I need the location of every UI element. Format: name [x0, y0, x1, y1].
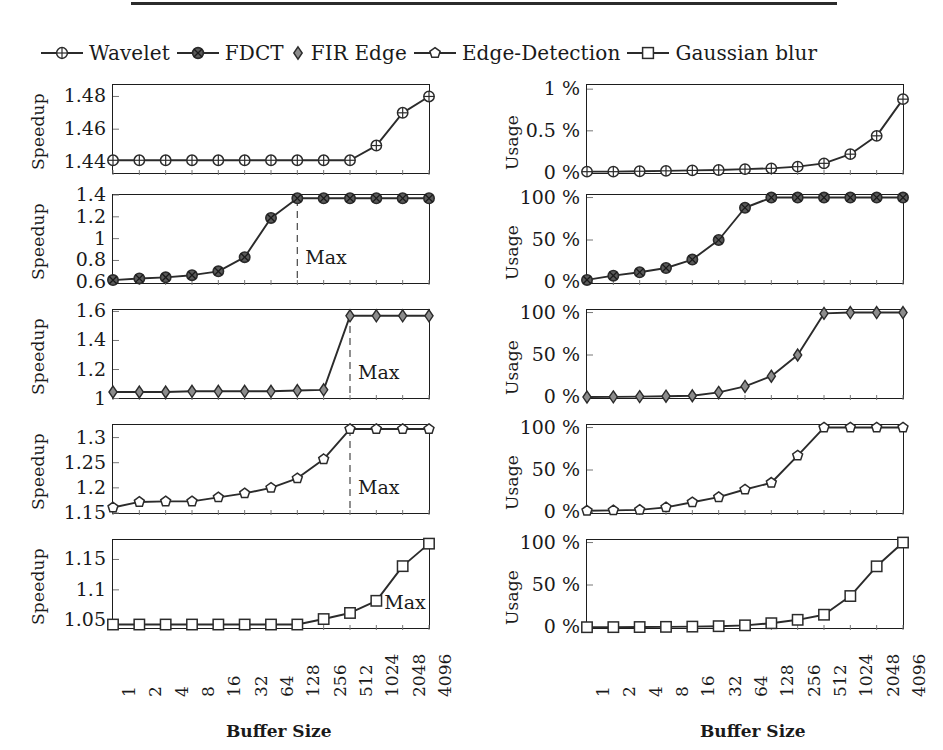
- chart-panel-edge-detection-speedup: Speedup1.151.21.251.3Max: [0, 416, 470, 530]
- data-point-diamond-icon: [162, 386, 170, 398]
- x-tick-label: 2: [619, 686, 639, 697]
- data-point-square-icon: [898, 537, 908, 547]
- data-line: [113, 198, 429, 280]
- x-tick-label: 4: [646, 686, 666, 697]
- y-tick-label: 1.15: [64, 501, 106, 523]
- data-point-diamond-icon: [846, 307, 854, 319]
- data-point-diamond-icon: [346, 310, 354, 322]
- max-label: Max: [358, 476, 400, 498]
- y-tick-label: 1: [94, 227, 106, 249]
- legend-item-gaussian-blur[interactable]: Gaussian blur: [626, 41, 823, 65]
- data-point-diamond-icon: [688, 390, 696, 402]
- data-point-pentagon-icon: [872, 422, 882, 431]
- y-tick-label: 100 %: [520, 301, 580, 323]
- y-tick-label: 1.05: [64, 608, 106, 630]
- x-tick-label: 4096: [909, 654, 929, 697]
- data-point-square-icon: [766, 618, 776, 628]
- diamond-icon: [294, 47, 302, 59]
- data-point-circle-cross-icon: [687, 165, 697, 175]
- legend-item-wavelet[interactable]: Wavelet: [40, 41, 176, 65]
- y-tick-labels: 11.21.41.6: [10, 309, 106, 399]
- x-tick-label: 1: [119, 686, 139, 697]
- data-point-square-icon: [187, 619, 197, 629]
- y-tick-label: 1.44: [64, 150, 106, 172]
- data-point-diamond-icon: [899, 307, 907, 319]
- y-tick-label: 100 %: [520, 531, 580, 553]
- data-point-circle-filled-cross-icon: [266, 213, 276, 223]
- data-point-pentagon-icon: [371, 424, 381, 433]
- plot-area: [112, 194, 430, 284]
- data-point-circle-cross-icon: [898, 94, 908, 104]
- data-point-circle-filled-cross-icon: [213, 266, 223, 276]
- x-tick-label: 8: [198, 686, 218, 697]
- data-point-circle-filled-cross-icon: [345, 193, 355, 203]
- data-point-circle-cross-icon: [582, 166, 592, 176]
- data-point-diamond-icon: [372, 310, 380, 322]
- data-point-circle-cross-icon: [766, 163, 776, 173]
- x-tick-label: 1: [593, 686, 613, 697]
- data-point-diamond-icon: [135, 386, 143, 398]
- chart-panel-fir-edge-usage: Usage0 %50 %100 %: [470, 301, 943, 415]
- y-tick-label: 1.4: [76, 183, 106, 205]
- x-tick-label: 8: [672, 686, 692, 697]
- data-point-square-icon: [213, 619, 223, 629]
- y-tick-labels: 0.60.811.21.4: [10, 194, 106, 284]
- data-point-circle-filled-cross-icon: [134, 273, 144, 283]
- plot-area: [586, 539, 904, 629]
- y-tick-labels: 1.441.461.48: [10, 84, 106, 174]
- data-point-circle-cross-icon: [134, 155, 144, 165]
- plot-area: [586, 84, 904, 174]
- data-point-circle-cross-icon: [318, 155, 328, 165]
- data-point-diamond-icon: [873, 307, 881, 319]
- y-tick-label: 0 %: [544, 385, 580, 407]
- data-point-diamond-icon: [767, 370, 775, 382]
- data-point-circle-filled-cross-icon: [766, 192, 776, 202]
- legend-item-fdct[interactable]: FDCT: [176, 41, 290, 65]
- legend-item-edge-detection[interactable]: Edge-Detection: [413, 41, 627, 65]
- chart-panel-wavelet-speedup: Speedup1.441.461.48: [0, 76, 470, 190]
- data-point-circle-filled-cross-icon: [792, 192, 802, 202]
- x-tick-label: 16: [224, 675, 244, 697]
- data-point-diamond-icon: [109, 386, 117, 398]
- pentagon-icon: [430, 48, 440, 58]
- data-point-pentagon-icon: [292, 473, 302, 482]
- data-point-square-icon: [634, 622, 644, 632]
- max-label: Max: [384, 591, 426, 613]
- legend-item-label: FDCT: [220, 41, 290, 65]
- plot-area: [112, 424, 430, 514]
- x-tick-label: 4096: [435, 654, 455, 697]
- y-tick-label: 0.8: [76, 248, 106, 270]
- data-point-circle-cross-icon: [740, 164, 750, 174]
- legend-item-fir-edge[interactable]: FIR Edge: [290, 41, 413, 65]
- plot-canvas: [587, 310, 905, 400]
- circle-cross-icon: [57, 48, 68, 59]
- data-point-diamond-icon: [715, 386, 723, 398]
- data-point-circle-filled-cross-icon: [292, 193, 302, 203]
- chart-panel-fir-edge-speedup: Speedup11.21.41.6Max: [0, 301, 470, 415]
- plot-canvas: [113, 85, 431, 175]
- data-point-square-icon: [318, 614, 328, 624]
- data-point-pentagon-icon: [345, 424, 355, 433]
- data-point-pentagon-icon: [714, 492, 724, 501]
- data-point-circle-filled-cross-icon: [713, 235, 723, 245]
- x-tick-label: 64: [751, 675, 771, 697]
- y-tick-label: 50 %: [532, 458, 580, 480]
- x-axis-title: Buffer Size: [226, 721, 332, 741]
- data-point-diamond-icon: [188, 385, 196, 397]
- y-tick-label: 1: [94, 387, 106, 409]
- plot-area: [112, 309, 430, 399]
- data-point-square-icon: [687, 621, 697, 631]
- square-icon: [643, 48, 654, 59]
- figure-root: WaveletFDCTFIR EdgeEdge-DetectionGaussia…: [0, 0, 943, 750]
- data-point-square-icon: [819, 610, 829, 620]
- data-point-pentagon-icon: [424, 424, 434, 433]
- y-tick-label: 0.5 %: [526, 119, 580, 141]
- x-tick-label: 512: [356, 665, 376, 697]
- data-point-diamond-icon: [320, 384, 328, 396]
- legend-marker-pentagon-icon: [413, 42, 457, 64]
- plot-canvas: [587, 195, 905, 285]
- data-point-circle-filled-cross-icon: [397, 193, 407, 203]
- plot-area: [586, 424, 904, 514]
- y-tick-label: 1.48: [64, 84, 106, 106]
- x-tick-label: 4: [172, 686, 192, 697]
